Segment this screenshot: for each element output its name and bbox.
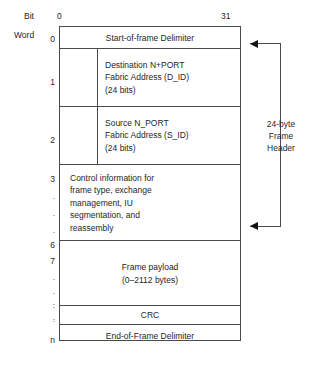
word-number-2: 2 xyxy=(50,136,55,145)
frame-layout-box: Start-of-frame Delimiter Destination N+P… xyxy=(59,26,241,341)
destination-address-text: Destination N+PORT Fabric Address (D_ID)… xyxy=(105,59,189,97)
bit-end-tick-label: 31 xyxy=(221,12,230,21)
word-number-dot-4: . xyxy=(53,273,55,282)
frame-row-payload: Frame payload (0–2112 bytes) xyxy=(60,241,240,306)
word-number-dot-3: . xyxy=(53,226,55,235)
source-address-text: Source N_PORT Fabric Address (S_ID) (24 … xyxy=(105,117,189,155)
crc-text: CRC xyxy=(60,306,240,324)
bracket-top-arrow-icon xyxy=(250,40,258,48)
control-information-text: Control information for frame type, exch… xyxy=(70,171,154,234)
word-number-gutter: 0 1 2 3 . . . 6 7 . . . . . . n xyxy=(34,26,55,341)
word-number-dot-2: . xyxy=(53,209,55,218)
start-of-frame-text: Start-of-frame Delimiter xyxy=(60,27,240,48)
word-axis-label: Word xyxy=(14,31,34,40)
frame-row-crc: CRC xyxy=(60,306,240,325)
destination-reserved-subfield xyxy=(60,49,98,106)
word-number-dot-5: . xyxy=(53,287,55,296)
frame-row-source-address: Source N_PORT Fabric Address (S_ID) (24 … xyxy=(60,107,240,165)
word-number-6: 6 xyxy=(50,241,55,250)
bracket-bottom-arrow-icon xyxy=(250,222,258,230)
word-number-7: 7 xyxy=(50,257,55,266)
frame-row-control-information: Control information for frame type, exch… xyxy=(60,165,240,241)
word-number-n: n xyxy=(50,336,55,345)
word-number-3: 3 xyxy=(50,175,55,184)
source-reserved-subfield xyxy=(60,107,98,164)
bracket-bottom-connector xyxy=(250,226,281,227)
fibre-channel-frame-diagram: Bit 0 31 Word 0 1 2 3 . . . 6 7 . . . . … xyxy=(0,0,311,365)
word-number-dot-1: . xyxy=(53,192,55,201)
frame-header-caption: 24-byte Frame Header xyxy=(255,118,307,154)
payload-text: Frame payload (0–2112 bytes) xyxy=(60,261,240,286)
frame-row-start-of-frame: Start-of-frame Delimiter xyxy=(60,27,240,49)
frame-row-destination-address: Destination N+PORT Fabric Address (D_ID)… xyxy=(60,49,240,107)
bracket-top-connector xyxy=(250,43,281,44)
end-of-frame-text: End-of-Frame Delimiter xyxy=(60,325,240,346)
word-number-1: 1 xyxy=(50,78,55,87)
bit-axis-label: Bit xyxy=(24,12,34,21)
word-number-0: 0 xyxy=(50,35,55,44)
frame-row-end-of-frame: End-of-Frame Delimiter xyxy=(60,325,240,346)
word-number-dot-8: . xyxy=(53,298,55,307)
bit-start-tick-label: 0 xyxy=(57,12,62,21)
word-number-dot-9: . xyxy=(53,313,55,322)
